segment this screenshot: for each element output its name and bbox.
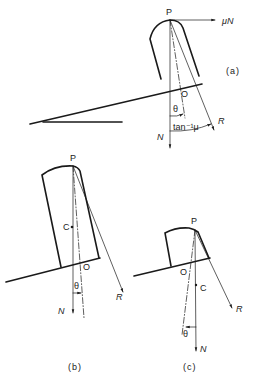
label-O-b: O [83, 262, 90, 272]
label-N-c: N [200, 344, 207, 354]
panel-c: P O C θ N R (c) [134, 216, 243, 372]
panel-b: P C O θ N R (b) [6, 153, 123, 372]
label-P-a: P [166, 7, 172, 17]
label-O-a: O [181, 89, 188, 99]
block-outline-b [42, 166, 99, 267]
centerline-c [182, 230, 195, 335]
figure-canvas: P μN O θ tan⁻¹μ N R (a) P C O θ N R (b) … [0, 0, 254, 382]
centroid-dot-c [195, 284, 197, 286]
theta-arc-a [170, 114, 183, 116]
label-C-c: C [200, 283, 207, 293]
label-R-b: R [116, 292, 123, 302]
label-P-c: P [191, 216, 197, 226]
label-O-c: O [180, 267, 187, 277]
incline-plane-c [134, 258, 210, 276]
resultant-arrow-c [195, 230, 232, 308]
label-tan-mu-a: tan⁻¹μ [173, 122, 199, 132]
label-N-a: N [157, 132, 164, 142]
caption-c: (c) [183, 362, 197, 372]
panel-a: P μN O θ tan⁻¹μ N R (a) [30, 7, 240, 148]
label-C-b: C [63, 222, 70, 232]
label-theta-b: θ [74, 281, 79, 291]
caption-b: (b) [68, 362, 82, 372]
centroid-dot-b [71, 226, 74, 229]
label-theta-a: θ [173, 104, 178, 114]
caption-a: (a) [226, 66, 240, 76]
label-P-b: P [70, 153, 76, 163]
normal-force-arrow-c [195, 230, 196, 351]
label-theta-c: θ [183, 329, 188, 339]
label-R-a: R [218, 116, 225, 126]
label-N-b: N [58, 306, 65, 316]
label-R-c: R [236, 304, 243, 314]
label-muN-a: μN [221, 16, 234, 26]
